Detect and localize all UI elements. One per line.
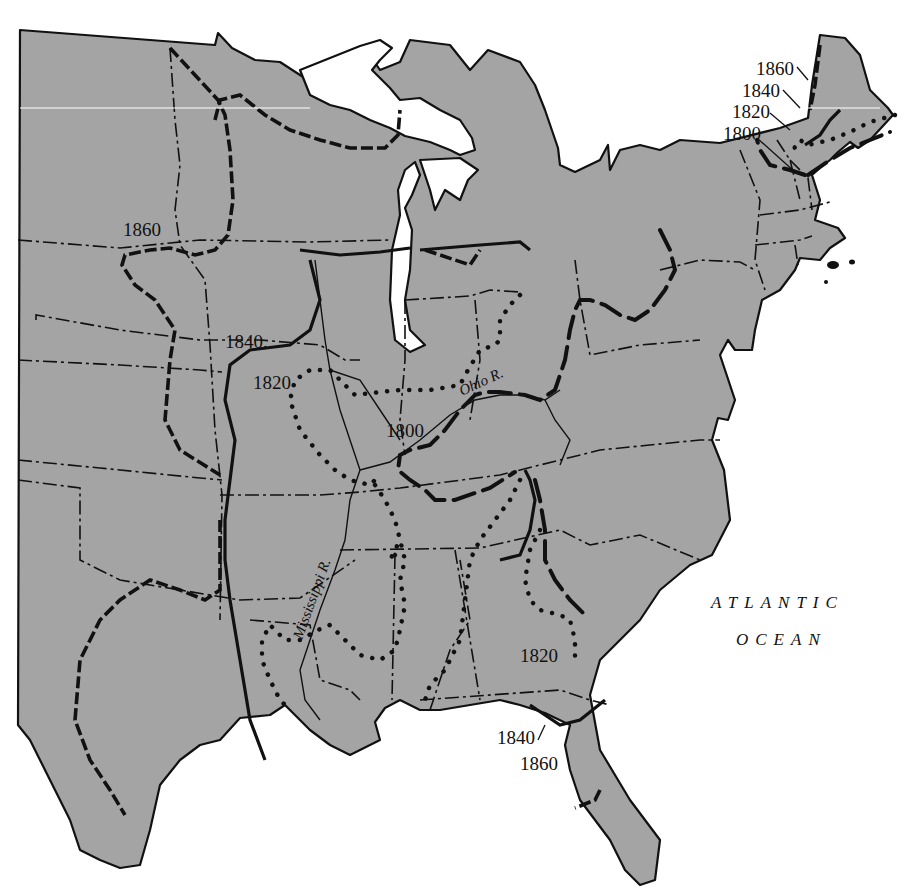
label-1840-ne: 1840 [742,80,780,101]
label-ocean: OCEAN [736,630,827,649]
label-1820-west: 1820 [253,372,291,393]
label-1800-ne: 1800 [723,123,761,144]
label-1860-fl: 1860 [520,753,558,774]
label-1860-ne: 1860 [756,58,794,79]
label-1800-west: 1800 [386,420,424,441]
label-1840-west: 1840. [225,331,268,352]
frontier-map: 1860 1840. 1820 1800 1860 1840 1820 1800… [0,0,918,890]
island-nantucket [849,260,855,265]
label-1860-west: 1860 [123,219,161,240]
label-1820-ne: 1820 [732,101,770,122]
island-block [824,280,828,284]
label-atlantic: ATLANTIC [710,593,844,612]
label-1820-se: 1820 [520,645,558,666]
label-1840-fl: 1840 [497,727,535,748]
island-marthas-vineyard [827,261,839,269]
